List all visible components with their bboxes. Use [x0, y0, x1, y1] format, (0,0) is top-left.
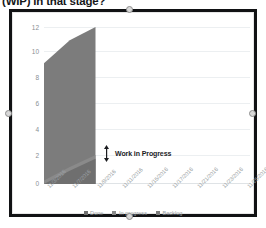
selection-handle-right[interactable] — [249, 110, 256, 117]
chart-legend: Done In progress Backlog — [13, 210, 253, 216]
double-arrow-vertical-icon — [103, 144, 110, 163]
screenshot-root: (WIP) in that stage? 12 10 8 6 4 — [0, 0, 266, 228]
page-heading: (WIP) in that stage? — [2, 0, 202, 9]
picture-frame[interactable]: 12 10 8 6 4 2 0 11/3/2016 — [9, 9, 257, 217]
cumulative-flow-chart: 12 10 8 6 4 2 0 11/3/2016 — [13, 13, 253, 213]
y-tick-label: 6 — [35, 100, 39, 107]
selection-handle-top[interactable] — [126, 6, 133, 13]
legend-swatch-done — [84, 211, 88, 215]
wip-annotation-label: Work in Progress — [115, 150, 171, 157]
selection-handle-bottom[interactable] — [126, 213, 133, 220]
legend-swatch-backlog — [156, 211, 160, 215]
y-tick-label: 4 — [35, 126, 39, 133]
y-tick-label: 0 — [35, 180, 39, 187]
legend-item-done: Done — [84, 210, 104, 216]
selection-handle-left[interactable] — [5, 110, 12, 117]
y-tick-label: 10 — [32, 48, 39, 55]
legend-label-backlog: Backlog — [162, 210, 182, 216]
legend-swatch-in-progress — [112, 211, 116, 215]
wip-annotation: Work in Progress — [103, 143, 171, 163]
x-axis-labels: 11/3/2016 11/7/2016 11/9/2016 11/11/2016… — [44, 185, 250, 211]
picture-frame-inner: 12 10 8 6 4 2 0 11/3/2016 — [12, 12, 254, 214]
y-tick-label: 2 — [35, 152, 39, 159]
legend-item-backlog: Backlog — [156, 210, 182, 216]
y-tick-label: 12 — [32, 24, 39, 31]
legend-label-done: Done — [90, 210, 103, 216]
y-tick-label: 8 — [35, 74, 39, 81]
